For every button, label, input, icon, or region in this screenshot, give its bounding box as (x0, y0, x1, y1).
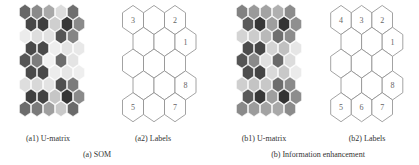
cluster-label: 1 (184, 38, 188, 47)
u-matrix-cell (260, 77, 271, 92)
u-matrix-cell (19, 4, 30, 19)
u-matrix-cell (43, 101, 54, 116)
u-matrix-cell (242, 65, 253, 80)
u-matrix-cell (248, 101, 259, 116)
u-matrix-cell (31, 77, 42, 92)
cluster-label: 8 (391, 81, 395, 90)
caption-b-information-enhancement: (b) Information enhancement (271, 150, 365, 159)
u-matrix-cell (37, 16, 48, 31)
u-matrix-cell (254, 41, 265, 56)
u-matrix-cell (248, 29, 259, 44)
u-matrix-cell (248, 4, 259, 19)
u-matrix-cell (248, 77, 259, 92)
cluster-label: 8 (184, 81, 188, 90)
cluster-label: 3 (131, 16, 135, 25)
u-matrix-cell (37, 65, 48, 80)
u-matrix-cell (236, 29, 247, 44)
u-matrix-cell (67, 53, 78, 68)
u-matrix-cell (31, 4, 42, 19)
u-matrix-cell (73, 89, 84, 104)
u-matrix-cell (266, 41, 277, 56)
u-matrix-cell (19, 101, 30, 116)
u-matrix-cell (43, 53, 54, 68)
u-matrix-cell (55, 101, 66, 116)
u-matrix-cell (73, 41, 84, 56)
cluster-label: 1 (391, 38, 395, 47)
u-matrix-cell (272, 53, 283, 68)
u-matrix-cell (260, 101, 271, 116)
cluster-label: 5 (131, 103, 135, 112)
cluster-label: 2 (380, 16, 384, 25)
u-matrix-cell (31, 101, 42, 116)
caption-b1: (b1) U-matrix (242, 134, 287, 143)
u-matrix-cell (272, 77, 283, 92)
u-matrix-cell (278, 89, 289, 104)
cluster-label: 6 (360, 103, 364, 112)
u-matrix-cell (242, 89, 253, 104)
u-matrix-cell (290, 41, 301, 56)
u-matrix-cell (43, 4, 54, 19)
u-matrix-cell (19, 29, 30, 44)
u-matrix-cell (31, 29, 42, 44)
u-matrix-cell (49, 65, 60, 80)
u-matrix-cell (31, 53, 42, 68)
u-matrix-cell (236, 4, 247, 19)
u-matrix-cell (37, 41, 48, 56)
u-matrix-cell (284, 101, 295, 116)
cluster-label: 4 (339, 16, 343, 25)
u-matrix-cell (260, 29, 271, 44)
u-matrix-cell (19, 77, 30, 92)
u-matrix-cell (284, 53, 295, 68)
u-matrix-cell (290, 16, 301, 31)
u-matrix-cell (61, 16, 72, 31)
caption-a1: (a1) U-matrix (26, 134, 70, 143)
u-matrix-cell (284, 29, 295, 44)
u-matrix-cell (266, 89, 277, 104)
u-matrix-cell (278, 16, 289, 31)
u-matrix-cell (272, 101, 283, 116)
cluster-label: 2 (173, 16, 177, 25)
u-matrix-cell (67, 4, 78, 19)
u-matrix-enhanced-panel (236, 4, 301, 116)
u-matrix-cell (290, 65, 301, 80)
u-matrix-cell (73, 16, 84, 31)
cluster-label: 5 (339, 103, 343, 112)
cluster-label: 7 (173, 103, 177, 112)
u-matrix-cell (61, 89, 72, 104)
u-matrix-cell (260, 53, 271, 68)
u-matrix-cell (242, 41, 253, 56)
u-matrix-cell (266, 16, 277, 31)
u-matrix-cell (55, 4, 66, 19)
u-matrix-cell (49, 41, 60, 56)
u-matrix-cell (254, 89, 265, 104)
u-matrix-cell (19, 53, 30, 68)
u-matrix-cell (25, 16, 36, 31)
u-matrix-cell (278, 41, 289, 56)
u-matrix-cell (55, 53, 66, 68)
u-matrix-cell (73, 65, 84, 80)
u-matrix-cell (49, 16, 60, 31)
caption-b2: (b2) Labels (349, 134, 386, 143)
u-matrix-cell (37, 89, 48, 104)
u-matrix-cell (55, 77, 66, 92)
caption-a-som: (a) SOM (83, 150, 111, 159)
u-matrix-cell (272, 4, 283, 19)
u-matrix-cell (236, 101, 247, 116)
u-matrix-cell (49, 89, 60, 104)
u-matrix-som-panel (19, 4, 84, 116)
u-matrix-cell (43, 77, 54, 92)
u-matrix-cell (25, 65, 36, 80)
u-matrix-cell (236, 53, 247, 68)
cluster-label: 7 (380, 103, 384, 112)
labels-som-panel: 321857 (123, 5, 197, 121)
u-matrix-cell (61, 41, 72, 56)
u-matrix-cell (272, 29, 283, 44)
u-matrix-cell (55, 29, 66, 44)
u-matrix-cell (67, 29, 78, 44)
u-matrix-cell (266, 65, 277, 80)
u-matrix-cell (25, 89, 36, 104)
u-matrix-cell (242, 16, 253, 31)
cluster-label: 3 (360, 16, 364, 25)
u-matrix-cell (254, 65, 265, 80)
u-matrix-cell (67, 77, 78, 92)
